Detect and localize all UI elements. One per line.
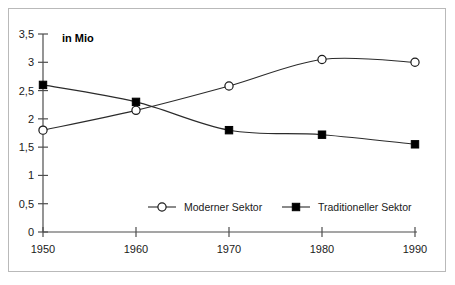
x-tick-label: 1950 [31,243,55,255]
x-tick-label: 1970 [217,243,241,255]
y-tick-label: 3 [28,56,34,68]
legend-item-2[interactable]: Traditioneller Sektor [282,201,412,213]
y-tick-label: 1 [28,169,34,181]
chart-series-layer [39,55,419,148]
data-point-open-circle [318,55,326,63]
data-point-open-circle [132,106,140,114]
x-tick-label: 1960 [124,243,148,255]
data-point-filled-square [225,126,232,133]
data-point-filled-square [411,141,418,148]
legend-item-1[interactable]: Moderner Sektor [148,201,263,213]
unit-label: in Mio [62,32,94,44]
data-point-open-circle [158,203,166,211]
data-point-filled-square [292,203,299,210]
y-tick-label: 0,5 [19,198,34,210]
series-2 [39,81,418,148]
chart-legend: Moderner SektorTraditioneller Sektor [148,201,412,213]
series-1 [39,55,419,134]
data-point-filled-square [39,81,46,88]
legend-label: Traditioneller Sektor [318,201,412,213]
y-tick-label: 3,5 [19,28,34,40]
y-tick-label: 1,5 [19,141,34,153]
chart-figure: 00,511,522,533,5 19501960197019801990 in… [0,0,455,285]
data-point-filled-square [132,98,139,105]
legend-label: Moderner Sektor [184,201,263,213]
series-line-path [43,85,415,144]
y-tick-label: 2,5 [19,85,34,97]
x-tick-label: 1990 [403,243,427,255]
data-point-filled-square [318,131,325,138]
data-point-open-circle [39,126,47,134]
y-tick-label: 0 [28,226,34,238]
data-point-open-circle [411,58,419,66]
data-point-open-circle [225,82,233,90]
x-tick-label: 1980 [310,243,334,255]
x-axis-ticks: 19501960197019801990 [31,227,427,255]
y-tick-label: 2 [28,113,34,125]
line-chart-plot: 00,511,522,533,5 19501960197019801990 in… [0,0,455,285]
